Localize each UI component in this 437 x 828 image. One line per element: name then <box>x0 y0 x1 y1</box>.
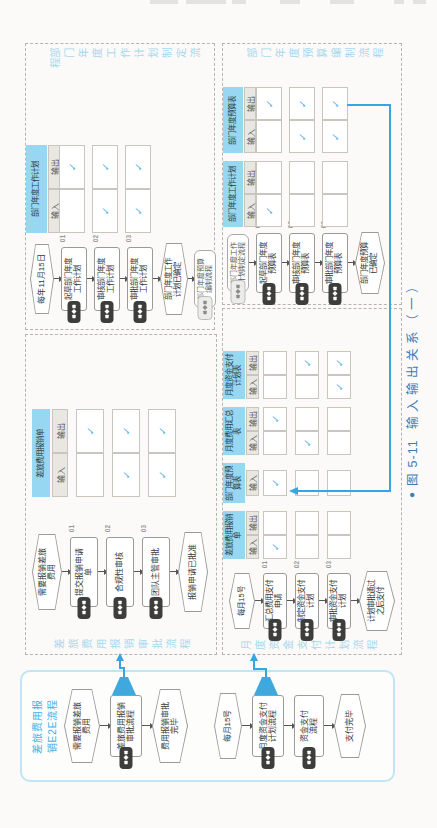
io-cell <box>295 470 319 496</box>
io-cell <box>256 161 282 194</box>
io-cell: ✓ <box>289 120 315 153</box>
end-event: 部门年度预算 已确定 <box>355 232 385 294</box>
flow-arrow <box>100 726 110 727</box>
caption-number: 图 5-11 <box>402 439 421 486</box>
page-edge-artifact <box>394 0 404 4</box>
flow-arrow <box>315 263 322 264</box>
io-header-cell: 输出 <box>246 351 259 375</box>
caption-bullet: ● <box>406 492 417 498</box>
task-icon <box>329 283 342 305</box>
page-edge-artifact <box>413 0 426 4</box>
io-cell <box>295 407 319 431</box>
check-icon: ✓ <box>270 414 281 424</box>
io-cell <box>295 511 319 535</box>
page-edge-artifact <box>280 0 300 4</box>
end-event: 部门年度工作 计划已确定 <box>160 243 188 315</box>
panel-title: 部门年度工作计划制定流程 <box>50 48 214 69</box>
task-box: 起草部门年度 工作计划 01 <box>61 247 87 311</box>
task-icon <box>114 597 127 619</box>
io-cell: ✓ <box>322 120 348 153</box>
io-cell: ✓ <box>295 351 319 375</box>
table-title: 差旅费用报销单 <box>223 511 245 559</box>
table-title: 部门年度工作计划 <box>223 161 243 227</box>
io-cell <box>59 189 85 233</box>
table-title: 月度费用汇总表 <box>223 407 245 455</box>
io-header-cell: 输出 <box>246 511 259 535</box>
step-number: 01 <box>261 561 269 568</box>
flow-arrow <box>153 279 160 280</box>
check-icon: ✓ <box>334 358 345 368</box>
flow-arrow <box>287 601 295 602</box>
io-header-cell: 输入 <box>52 453 68 497</box>
check-icon: ✓ <box>302 358 313 368</box>
io-cell: ✓ <box>148 409 176 453</box>
flow-arrow <box>284 726 294 727</box>
task-icon <box>269 619 282 641</box>
io-cell: ✓ <box>263 407 287 431</box>
io-cell <box>289 161 315 194</box>
table-title: 部门年度工作计划 <box>26 145 47 233</box>
io-cell <box>263 375 287 399</box>
task-icon <box>68 301 81 323</box>
io-cell: ✓ <box>112 409 140 453</box>
flow-arrow <box>255 601 263 602</box>
panel-title: 部门年度预算编制流程 <box>247 48 387 59</box>
flow-arrow <box>98 572 106 573</box>
check-icon: ✓ <box>330 99 341 109</box>
flow-arrow <box>324 726 334 727</box>
io-table: 差旅费用报销单输入输出✓ <box>223 511 359 559</box>
io-cell: ✓ <box>92 145 118 189</box>
io-cell <box>289 194 315 227</box>
io-table: 部门年度工作计划输入输出✓✓✓✓✓ <box>26 145 158 233</box>
panel-title: 月度资金支付计划流程 <box>241 641 381 652</box>
check-icon: ✓ <box>270 542 281 552</box>
process-link-box: 部门年度工作 计划制定流程 <box>227 234 249 292</box>
io-table: 月度资金支付计划表输入输出✓✓✓ <box>223 351 359 399</box>
check-icon: ✓ <box>133 162 144 172</box>
panel-zijin: 月度资金支付计划流程 每月15号 汇总费用支付 申请 01 制定资金支付 计划 … <box>222 308 402 655</box>
step-number: 02 <box>104 525 112 532</box>
io-cell <box>327 511 351 535</box>
page-edge-artifact <box>232 0 246 4</box>
e2e-process-baoxiao: 差旅费用报销 审批流程 <box>110 695 142 757</box>
task-icon <box>301 619 314 641</box>
subprocess-icon <box>262 747 275 769</box>
check-icon: ✓ <box>297 132 308 142</box>
io-cell: ✓ <box>125 145 151 189</box>
io-table: 月度费用汇总表输入输出✓✓ <box>223 407 359 455</box>
io-cell: ✓ <box>327 351 351 375</box>
rotated-figure: 差旅费用报 销E2E流程 需要报销差旅 费用 差旅费用报销 审批流程 费用报销审… <box>0 0 437 828</box>
io-table: 部门年度工作计划输入输出✓ <box>223 161 355 227</box>
task-icon <box>263 283 276 305</box>
check-icon: ✓ <box>157 470 168 480</box>
io-cell <box>322 161 348 194</box>
panel-jihua: 部门年度工作计划制定流程 每年11月15日 起草部门年度 工作计划 01 审核部… <box>25 43 215 330</box>
check-icon: ✓ <box>100 206 111 216</box>
io-cell <box>295 375 319 399</box>
io-cell: ✓ <box>263 535 287 559</box>
page-edge-artifact <box>186 0 226 4</box>
task-icon <box>150 597 163 619</box>
subprocess-icon <box>303 747 316 769</box>
io-cell <box>263 431 287 455</box>
io-cell <box>263 351 287 375</box>
e2e-start-event-2: 每月15号 <box>214 693 242 759</box>
check-icon: ✓ <box>85 426 96 436</box>
step-number: 01 <box>59 235 67 242</box>
io-cell <box>263 511 287 535</box>
task-icon <box>78 597 91 619</box>
scanned-page: 差旅费用报 销E2E流程 需要报销差旅 费用 差旅费用报销 审批流程 费用报销审… <box>0 0 437 828</box>
flow-arrow <box>242 726 252 727</box>
io-cell: ✓ <box>92 189 118 233</box>
flow-arrow <box>120 279 127 280</box>
io-cell: ✓ <box>263 470 287 496</box>
flow-arrow <box>348 263 355 264</box>
io-header-cell: 输出 <box>52 409 68 453</box>
io-header-cell: 输入 <box>246 375 259 399</box>
io-header-cell: 输出 <box>244 161 256 194</box>
io-cell <box>327 470 351 496</box>
caption-title: 输入输出关系（一） <box>402 276 421 429</box>
io-table: 部门年度预算表输入✓ <box>223 463 359 503</box>
task-icon <box>296 283 309 305</box>
start-event: 需要报销差旅 费用 <box>32 534 62 610</box>
